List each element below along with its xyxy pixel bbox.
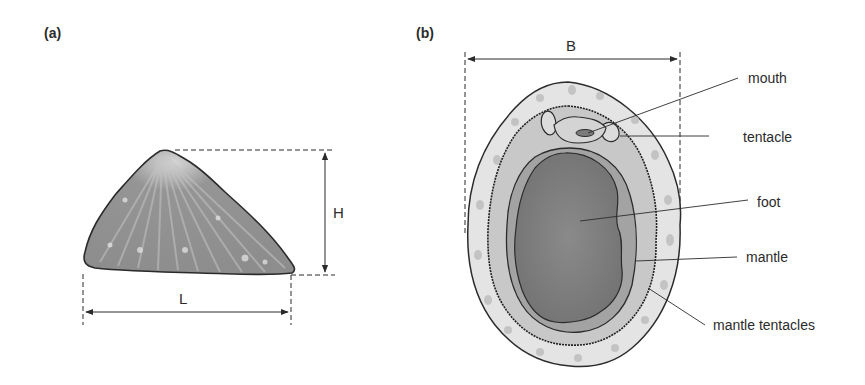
- tentacle-label: tentacle: [743, 129, 792, 145]
- mantle-tentacles-label: mantle tentacles: [713, 317, 815, 333]
- shell-side-view: [84, 150, 295, 274]
- foot-label: foot: [757, 194, 780, 210]
- panel-b-label: (b): [416, 25, 434, 41]
- mouth: [576, 130, 594, 137]
- panel-a: (a): [44, 25, 344, 325]
- breadth-label: B: [566, 37, 576, 54]
- height-label: H: [333, 204, 344, 221]
- limpet-underside: [468, 82, 681, 367]
- panel-a-label: (a): [44, 25, 61, 41]
- mantle-label: mantle: [746, 249, 788, 265]
- limpet-figure: (a): [0, 0, 865, 385]
- panel-b: (b) B: [416, 25, 815, 367]
- shell-outline: [84, 150, 295, 274]
- mouth-label: mouth: [748, 70, 787, 86]
- length-dimension: L: [83, 274, 291, 325]
- foot: [515, 153, 623, 323]
- length-label: L: [179, 290, 187, 307]
